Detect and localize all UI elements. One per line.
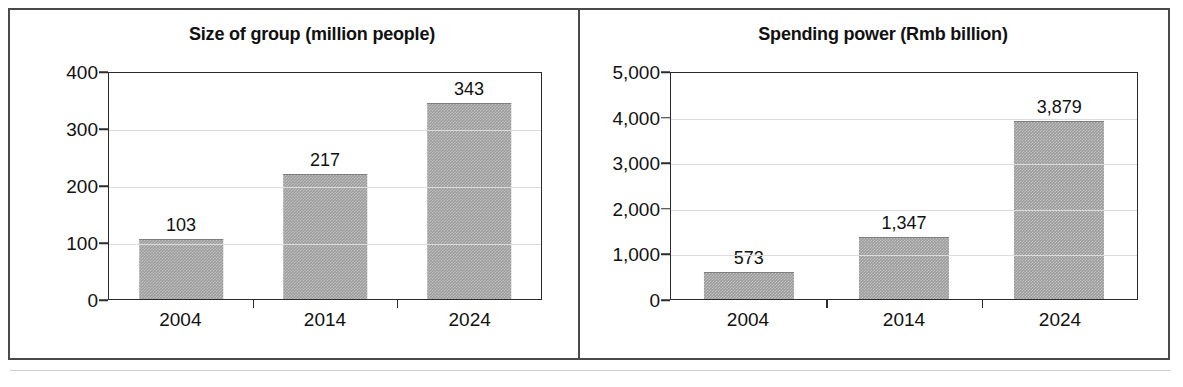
plot-box-right: 5731,3473,879 bbox=[670, 72, 1138, 300]
y-axis-tick-mark bbox=[99, 299, 108, 301]
y-axis-tick-mark bbox=[661, 208, 670, 210]
bar-value-label: 343 bbox=[454, 80, 484, 98]
x-axis-category-label: 2014 bbox=[253, 310, 398, 340]
gridline bbox=[671, 255, 1137, 256]
x-axis-category-label: 2024 bbox=[397, 310, 542, 340]
bar-group: 343 bbox=[397, 73, 541, 299]
bar-group: 103 bbox=[109, 73, 253, 299]
y-axis-tick-mark bbox=[661, 71, 670, 73]
y-axis-tick-mark bbox=[99, 242, 108, 244]
x-axis-tick-mark bbox=[253, 299, 255, 308]
y-axis-tick-mark bbox=[661, 162, 670, 164]
bar-value-label: 3,879 bbox=[1037, 98, 1082, 116]
x-axis-right: 200420142024 bbox=[670, 310, 1138, 340]
y-axis-tick-mark bbox=[99, 128, 108, 130]
bar bbox=[427, 103, 511, 300]
y-axis-tick-label: 100 bbox=[66, 234, 98, 253]
bar-group: 3,879 bbox=[982, 73, 1137, 299]
gridline bbox=[671, 164, 1137, 165]
y-axis-tick-label: 3,000 bbox=[612, 154, 660, 173]
x-axis-category-label: 2004 bbox=[108, 310, 253, 340]
x-axis-left: 200420142024 bbox=[108, 310, 542, 340]
y-axis-tick-mark bbox=[661, 299, 670, 301]
gridline bbox=[671, 210, 1137, 211]
chart-panel-size-of-group: Size of group (million people) 010020030… bbox=[10, 10, 578, 358]
gridline bbox=[109, 130, 541, 131]
x-axis-category-label: 2024 bbox=[982, 310, 1138, 340]
bar-group: 1,347 bbox=[826, 73, 981, 299]
x-axis-category-label: 2004 bbox=[670, 310, 826, 340]
bar-group: 217 bbox=[253, 73, 397, 299]
y-axis-tick-label: 400 bbox=[66, 63, 98, 82]
x-axis-tick-mark bbox=[982, 299, 984, 308]
bar-value-label: 217 bbox=[310, 151, 340, 169]
gridline bbox=[109, 187, 541, 188]
y-axis-tick-label: 0 bbox=[87, 291, 98, 310]
plot-area-right: 01,0002,0003,0004,0005,000 5731,3473,879… bbox=[580, 72, 1168, 358]
figure-frame: Size of group (million people) 010020030… bbox=[8, 8, 1170, 360]
chart-title-left: Size of group (million people) bbox=[10, 24, 578, 45]
gridline bbox=[671, 119, 1137, 120]
plot-box-left: 103217343 bbox=[108, 72, 542, 300]
y-axis-left: 0100200300400 bbox=[46, 72, 108, 300]
y-axis-tick-mark bbox=[99, 185, 108, 187]
x-axis-tick-mark bbox=[826, 299, 828, 308]
bar-group: 573 bbox=[671, 73, 826, 299]
bar bbox=[859, 237, 949, 299]
bar-value-label: 573 bbox=[734, 249, 764, 267]
y-axis-tick-mark bbox=[99, 71, 108, 73]
x-axis-tick-mark bbox=[397, 299, 399, 308]
y-axis-tick-mark bbox=[661, 117, 670, 119]
bar bbox=[283, 174, 367, 299]
y-axis-tick-label: 4,000 bbox=[612, 108, 660, 127]
y-axis-tick-label: 0 bbox=[649, 291, 660, 310]
y-axis-tick-label: 2,000 bbox=[612, 199, 660, 218]
plot-area-left: 0100200300400 103217343 200420142024 bbox=[10, 72, 578, 358]
y-axis-tick-label: 5,000 bbox=[612, 63, 660, 82]
x-axis-category-label: 2014 bbox=[826, 310, 982, 340]
y-axis-right: 01,0002,0003,0004,0005,000 bbox=[608, 72, 670, 300]
bar-series-right: 5731,3473,879 bbox=[671, 73, 1137, 299]
chart-panels: Size of group (million people) 010020030… bbox=[10, 10, 1168, 358]
chart-title-right: Spending power (Rmb billion) bbox=[580, 24, 1168, 45]
gridline bbox=[109, 244, 541, 245]
bar-value-label: 1,347 bbox=[881, 214, 926, 232]
bar-series-left: 103217343 bbox=[109, 73, 541, 299]
bar bbox=[704, 272, 794, 299]
chart-panel-spending-power: Spending power (Rmb billion) 01,0002,000… bbox=[578, 10, 1168, 358]
y-axis-tick-label: 1,000 bbox=[612, 245, 660, 264]
y-axis-tick-label: 300 bbox=[66, 120, 98, 139]
bar-value-label: 103 bbox=[166, 216, 196, 234]
y-axis-tick-mark bbox=[661, 254, 670, 256]
bar bbox=[139, 239, 223, 299]
y-axis-tick-label: 200 bbox=[66, 177, 98, 196]
scan-artifact-line bbox=[10, 370, 1170, 371]
